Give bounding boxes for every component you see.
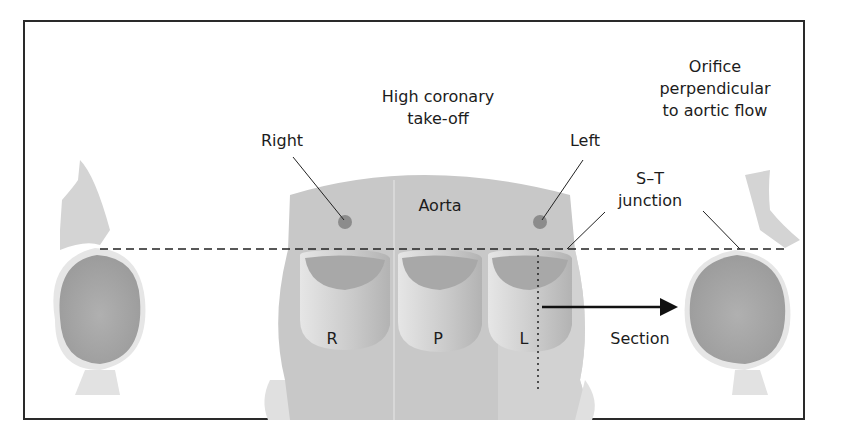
st-junction-label: S–T junction	[605, 168, 695, 212]
st-line2: junction	[605, 190, 695, 212]
left-coronary-ostium	[533, 215, 547, 229]
left-section-profile	[53, 160, 145, 395]
st-leader-2	[703, 211, 740, 249]
arrowhead-icon	[660, 298, 678, 316]
left-coronary-label: Left	[560, 130, 610, 152]
orifice-line2: perpendicular	[640, 78, 790, 100]
cusp-l-label: L	[514, 328, 534, 350]
st-line1: S–T	[605, 168, 695, 190]
right-coronary-ostium	[338, 215, 352, 229]
high-coronary-label: High coronary take-off	[368, 86, 508, 130]
right-coronary-label: Right	[252, 130, 312, 152]
orifice-line1: Orifice	[640, 56, 790, 78]
high-coronary-line2: take-off	[368, 108, 508, 130]
cusp-p-label: P	[428, 328, 448, 350]
orifice-label: Orifice perpendicular to aortic flow	[640, 56, 790, 122]
right-section-profile	[685, 170, 800, 395]
orifice-line3: to aortic flow	[640, 100, 790, 122]
section-label: Section	[595, 328, 685, 350]
aorta-label: Aorta	[405, 195, 475, 217]
high-coronary-line1: High coronary	[368, 86, 508, 108]
cusp-r-label: R	[322, 328, 342, 350]
